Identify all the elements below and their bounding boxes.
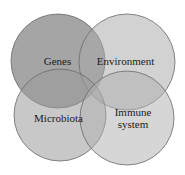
label-microbiota: Microbiota [34, 112, 83, 124]
label-immune-line2: system [118, 118, 149, 130]
label-genes: Genes [44, 55, 72, 67]
venn-circles [11, 14, 175, 165]
label-immune-line1: Immune [115, 106, 152, 118]
venn-diagram: Genes Environment Microbiota Immune syst… [0, 0, 185, 175]
venn-svg: Genes Environment Microbiota Immune syst… [0, 0, 185, 175]
label-environment: Environment [97, 55, 154, 67]
